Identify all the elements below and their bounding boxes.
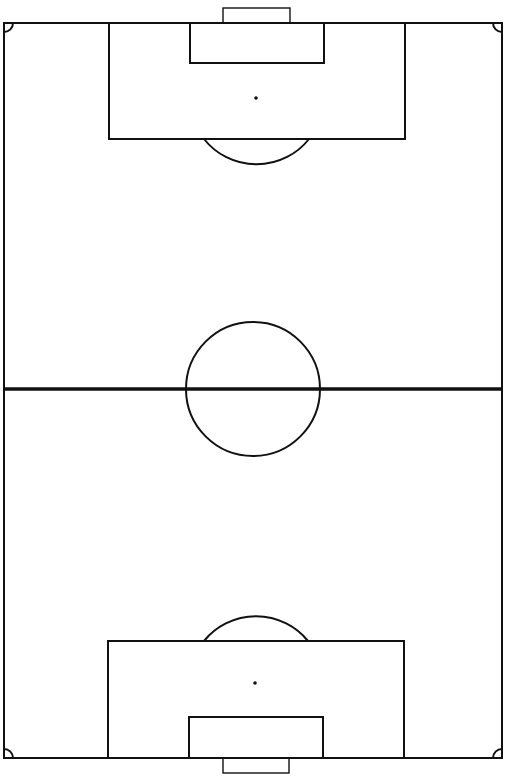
bottom-penalty-arc (204, 616, 308, 641)
corner-arc-bottom-right (493, 749, 502, 758)
top-penalty-arc (204, 139, 309, 164)
top-penalty-area (109, 23, 405, 139)
bottom-goal (223, 758, 289, 773)
bottom-penalty-area (108, 641, 404, 758)
corner-arc-top-right (493, 23, 502, 32)
soccer-pitch-diagram (0, 0, 505, 778)
top-goal (223, 8, 290, 23)
top-goal-area (190, 23, 324, 63)
corner-arc-bottom-left (4, 749, 13, 758)
bottom-goal-area (189, 717, 323, 758)
corner-arc-top-left (4, 23, 13, 32)
top-penalty-spot (254, 96, 258, 100)
bottom-penalty-spot (253, 681, 257, 685)
